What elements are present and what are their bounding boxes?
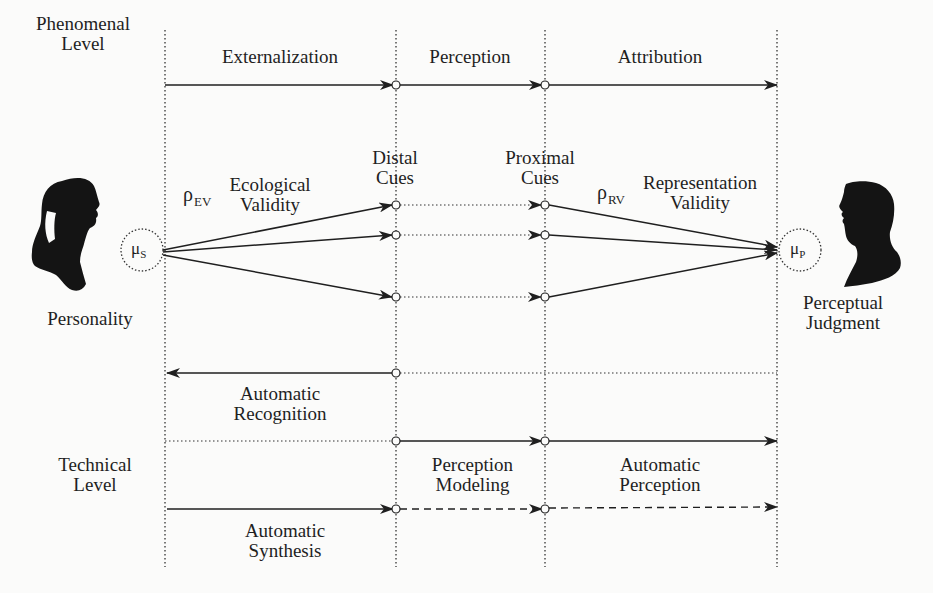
personality-caption: Personality (25, 309, 155, 329)
node-circle (392, 369, 400, 377)
technical-level-label: Technical Level (45, 455, 145, 495)
proximal-cue-node (541, 201, 549, 209)
distal-cue-node (392, 201, 400, 209)
phenomenal-arrows (165, 81, 777, 89)
node-circle (541, 437, 549, 445)
rho-rv-symbol: ρRV (597, 181, 625, 208)
rho-ev-symbol: ρEV (183, 183, 211, 210)
male-silhouette-icon (839, 181, 901, 287)
node-circle (392, 505, 400, 513)
automatic-synthesis-label: Automatic Synthesis (225, 521, 345, 561)
perception-modeling-label: Perception Modeling (415, 455, 530, 495)
cue-nodes (392, 201, 549, 301)
perception-label: Perception (410, 47, 530, 67)
mu-s-symbol: μS (131, 239, 146, 260)
proximal-cue-node (541, 231, 549, 239)
brunswik-lens-diagram: Phenomenal Level Technical Level Externa… (0, 0, 933, 593)
distal-cues-label: Distal Cues (355, 148, 435, 188)
distal-cue-node (392, 293, 400, 301)
distal-cue-node (392, 231, 400, 239)
proximal-cues-label: Proximal Cues (490, 148, 590, 188)
phenomenal-level-label: Phenomenal Level (28, 14, 138, 54)
node-circle (541, 505, 549, 513)
node-circle (392, 81, 400, 89)
automatic-recognition-label: Automatic Recognition (220, 384, 340, 424)
synthesis-perception-dashed-arrow (549, 507, 777, 508)
representation-arrows (549, 205, 777, 297)
ecological-validity-label: Ecological Validity (215, 175, 325, 215)
externalization-label: Externalization (195, 47, 365, 67)
representation-validity-label: Representation Validity (630, 173, 770, 213)
perceptual-judgment-caption: Perceptual Judgment (778, 293, 908, 333)
automatic-perception-label: Automatic Perception (600, 455, 720, 495)
rep-arrow-3 (549, 253, 777, 297)
mu-p-symbol: μP (790, 239, 805, 260)
node-circle (392, 437, 400, 445)
node-circle (541, 81, 549, 89)
cue-arrow-3 (163, 255, 392, 297)
attribution-label: Attribution (590, 47, 730, 67)
rep-arrow-2 (549, 235, 777, 250)
transmission-arrows (400, 205, 541, 297)
female-silhouette-icon (32, 178, 100, 291)
proximal-cue-node (541, 293, 549, 301)
ecological-arrows (163, 205, 392, 297)
